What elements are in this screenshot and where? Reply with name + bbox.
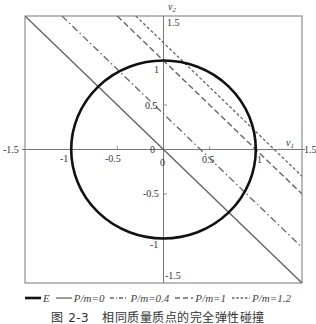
x-tick-neg1.5: -1.5 xyxy=(3,144,19,155)
chart-figure: v2 v1 -1.5 -1 -0.5 0 0.5 1 1.5 1.5 1 0.5… xyxy=(0,0,316,324)
legend-label: P/m=0.4 xyxy=(130,292,169,304)
y-tick-0: 0 xyxy=(150,144,155,155)
legend-item-pm-0: P/m=0 xyxy=(56,292,105,304)
y-tick-neg1: -1 xyxy=(150,239,158,250)
line-pm-1.2 xyxy=(136,16,302,176)
legend-item-e: E xyxy=(25,292,50,304)
legend-swatch-short-dashed-icon xyxy=(232,295,250,301)
legend-item-pm-0.4: P/m=0.4 xyxy=(110,292,169,304)
x-tick-neg0.5: -0.5 xyxy=(105,153,121,164)
y-axis-label: v2 xyxy=(168,1,176,14)
x-tick-1: 1 xyxy=(257,154,262,165)
legend-label: P/m=0 xyxy=(74,292,105,304)
x-tick-0.5: 0.5 xyxy=(202,154,215,165)
x-tick-1.5: 1.5 xyxy=(304,144,316,155)
legend-item-pm-1: P/m=1 xyxy=(175,292,226,304)
y-tick-0.5: 0.5 xyxy=(145,100,158,111)
legend-label: E xyxy=(43,292,50,304)
legend-label: P/m=1 xyxy=(195,292,226,304)
legend-swatch-dash-dot-icon xyxy=(110,295,128,301)
y-tick-neg1.5: -1.5 xyxy=(165,270,181,281)
legend-label: P/m=1.2 xyxy=(252,292,291,304)
legend-swatch-dashed-icon xyxy=(175,295,193,301)
figure-caption: 图 2-3 相同质量质点的完全弹性碰撞 xyxy=(0,308,316,324)
y-tick-neg0.5: -0.5 xyxy=(143,188,159,199)
caption-text: 相同质量质点的完全弹性碰撞 xyxy=(102,311,265,324)
caption-number: 图 2-3 xyxy=(51,311,89,324)
x-tick-0: 0 xyxy=(160,157,165,168)
legend-item-pm-1.2: P/m=1.2 xyxy=(232,292,291,304)
legend-swatch-thick-solid-icon xyxy=(25,295,41,301)
legend: E P/m=0 P/m=0.4 P/m=1 P/m=1.2 xyxy=(0,290,316,306)
x-tick-labels: -1.5 -1 -0.5 0 0.5 1 1.5 xyxy=(3,144,316,168)
y-tick-1.5: 1.5 xyxy=(167,17,180,28)
x-tick-neg1: -1 xyxy=(60,153,68,164)
x-axis-label: v1 xyxy=(286,137,294,150)
legend-swatch-solid-icon xyxy=(56,295,72,301)
y-tick-1: 1 xyxy=(154,64,159,75)
